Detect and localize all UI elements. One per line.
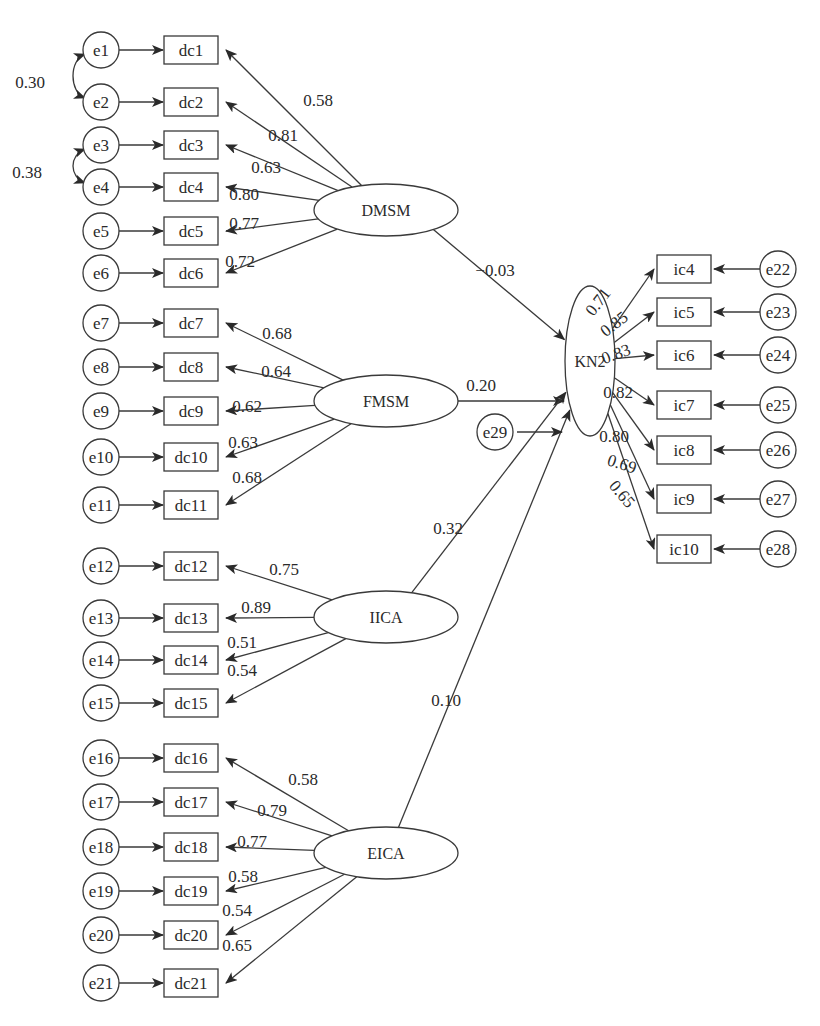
loading-arrow-dc1	[226, 50, 362, 186]
indicator-label: dc8	[179, 358, 204, 377]
covariance-value: 0.30	[15, 73, 45, 92]
indicator-label: ic8	[674, 441, 695, 460]
error-label: e27	[766, 490, 791, 509]
error-label: e14	[89, 651, 114, 670]
loading-value: 0.80	[229, 185, 259, 204]
loading-value: 0.80	[599, 427, 629, 446]
loading-value: 0.65	[222, 936, 252, 955]
loading-arrow-dc13	[226, 617, 314, 618]
path-coefficient: 0.20	[466, 376, 496, 395]
loading-value: 0.81	[268, 126, 298, 145]
indicator-label: dc17	[174, 793, 208, 812]
loading-value: 0.58	[288, 770, 318, 789]
indicator-label: dc18	[174, 838, 207, 857]
error-label: e5	[93, 222, 109, 241]
indicator-label: dc6	[179, 264, 204, 283]
error-label: e24	[766, 346, 791, 365]
error-label: e8	[93, 358, 109, 377]
error-label: e17	[89, 793, 114, 812]
error-label: e21	[89, 974, 114, 993]
indicator-label: ic6	[674, 346, 695, 365]
covariance-arc	[73, 54, 85, 98]
indicator-label: dc19	[174, 882, 207, 901]
loading-value: 0.54	[222, 901, 252, 920]
loading-value: 0.64	[261, 362, 291, 381]
indicator-label: dc4	[179, 178, 204, 197]
error-label: e23	[766, 303, 791, 322]
indicator-label: dc11	[175, 496, 207, 515]
indicator-label: dc2	[179, 93, 204, 112]
indicator-label: dc12	[174, 557, 207, 576]
latent-label: DMSM	[362, 202, 411, 219]
latent-label: FMSM	[363, 393, 409, 410]
indicator-label: dc21	[174, 974, 207, 993]
error-label: e15	[89, 694, 114, 713]
indicator-label: ic5	[674, 303, 695, 322]
path-coefficient: 0.32	[433, 519, 463, 538]
loading-value: 0.68	[262, 324, 292, 343]
loading-value: 0.68	[232, 468, 262, 487]
error-label: e10	[89, 448, 114, 467]
path-coefficient: 0.10	[431, 691, 461, 710]
structural-path-dmsm	[433, 230, 564, 340]
labels-layer: e1dc10.58e2dc20.81e3dc30.63e4dc40.80e5dc…	[12, 41, 791, 993]
loading-value: 0.75	[269, 560, 299, 579]
error-label: e7	[93, 314, 110, 333]
latent-label: EICA	[367, 845, 405, 862]
indicator-label: dc16	[174, 749, 207, 768]
indicator-label: dc15	[174, 694, 207, 713]
indicator-label: dc7	[179, 314, 204, 333]
loading-value: 0.65	[605, 476, 639, 511]
loading-value: 0.72	[225, 252, 255, 271]
sem-path-diagram: e1dc10.58e2dc20.81e3dc30.63e4dc40.80e5dc…	[0, 0, 820, 1026]
loading-value: 0.51	[227, 633, 257, 652]
indicator-label: ic10	[669, 540, 698, 559]
error-label: e3	[93, 136, 109, 155]
loading-value: 0.63	[251, 158, 281, 177]
error-label: e4	[93, 178, 110, 197]
indicator-label: ic4	[674, 260, 695, 279]
loading-value: 0.62	[232, 397, 262, 416]
error-label: e12	[89, 557, 114, 576]
latent-label: IICA	[370, 609, 403, 626]
loading-value: 0.77	[229, 214, 259, 233]
latent-label: KN2	[574, 353, 605, 370]
error-label: e1	[93, 41, 109, 60]
loading-arrow-dc2	[226, 102, 352, 187]
indicator-label: dc13	[174, 609, 207, 628]
loading-value: 0.79	[257, 801, 287, 820]
error-label: e26	[766, 441, 791, 460]
error-label: e28	[766, 540, 791, 559]
error-label: e25	[766, 396, 791, 415]
error-label: e13	[89, 609, 114, 628]
error-label: e16	[89, 749, 114, 768]
error-label: e19	[89, 882, 114, 901]
loading-value: 0.89	[241, 598, 271, 617]
covariance-arc	[73, 149, 85, 183]
error-label: e6	[93, 264, 109, 283]
loading-arrow-dc21	[226, 877, 357, 983]
indicator-label: ic9	[674, 490, 695, 509]
indicator-label: ic7	[674, 396, 695, 415]
loading-value: 0.58	[228, 867, 258, 886]
loading-value: 0.63	[228, 433, 258, 452]
indicator-label: dc9	[179, 402, 204, 421]
loading-value: 0.77	[237, 832, 267, 851]
indicator-label: dc5	[179, 222, 204, 241]
covariance-value: 0.38	[12, 163, 42, 182]
error-label: e11	[89, 496, 113, 515]
indicator-label: dc1	[179, 41, 204, 60]
loading-value: 0.58	[303, 91, 333, 110]
indicator-label: dc10	[174, 448, 207, 467]
indicator-label: dc3	[179, 136, 204, 155]
error-label: e18	[89, 838, 114, 857]
path-coefficient: −0.03	[475, 261, 514, 280]
error-label: e2	[93, 93, 109, 112]
error-label: e29	[483, 423, 508, 442]
error-label: e20	[89, 926, 114, 945]
indicator-label: dc14	[174, 651, 208, 670]
error-label: e22	[766, 260, 791, 279]
error-label: e9	[93, 402, 109, 421]
loading-value: 0.82	[603, 383, 633, 402]
loading-value: 0.54	[227, 661, 257, 680]
